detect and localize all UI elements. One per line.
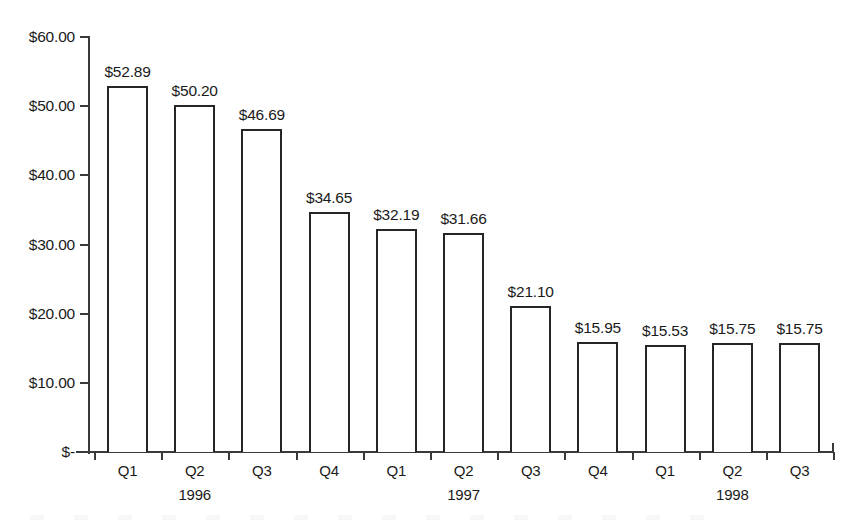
y-axis-tick xyxy=(76,451,93,453)
bar xyxy=(174,105,215,452)
bar-value-label: $50.20 xyxy=(155,83,235,99)
bar xyxy=(779,343,820,452)
scan-artifact xyxy=(30,515,730,520)
y-axis-tick xyxy=(80,313,89,315)
x-axis-tick xyxy=(564,452,566,460)
x-axis-tick xyxy=(296,452,298,460)
y-axis-tick-label: $10.00 xyxy=(29,375,75,391)
y-axis-tick xyxy=(80,36,89,38)
x-axis-tick xyxy=(766,452,768,460)
x-axis-category-label: Q3 xyxy=(760,463,840,478)
y-axis-tick xyxy=(80,105,89,107)
x-axis-tick xyxy=(94,452,96,460)
bar xyxy=(309,212,350,452)
x-axis-tick xyxy=(363,452,365,460)
bar-value-label: $21.10 xyxy=(491,284,571,300)
x-axis-year-label: 1996 xyxy=(155,487,235,502)
x-axis-tick xyxy=(497,452,499,460)
x-axis-tick xyxy=(430,452,432,460)
y-axis-tick-label: $30.00 xyxy=(29,237,75,253)
bar xyxy=(510,306,551,452)
bar xyxy=(241,129,282,452)
bar-value-label: $52.89 xyxy=(88,64,168,80)
y-axis-tick xyxy=(80,244,89,246)
y-axis-tick-label: $40.00 xyxy=(29,167,75,183)
x-axis-tick xyxy=(632,452,634,460)
bar xyxy=(577,342,618,452)
y-axis-tick-label: $60.00 xyxy=(29,29,75,45)
y-axis-tick xyxy=(80,174,89,176)
bar xyxy=(107,86,148,452)
bar xyxy=(376,229,417,452)
y-axis-tick xyxy=(80,382,89,384)
x-axis-tick xyxy=(161,452,163,460)
bar-value-label: $46.69 xyxy=(222,107,302,123)
x-axis-tick xyxy=(833,452,835,460)
x-axis-tick xyxy=(699,452,701,460)
x-axis-tick xyxy=(228,452,230,460)
bar-value-label: $31.66 xyxy=(424,211,504,227)
x-axis-year-label: 1998 xyxy=(692,487,772,502)
y-axis-tick-label: $50.00 xyxy=(29,98,75,114)
bar xyxy=(645,345,686,452)
y-axis-tick-label: $20.00 xyxy=(29,306,75,322)
x-axis-year-label: 1997 xyxy=(424,487,504,502)
bar-value-label: $15.75 xyxy=(760,321,840,337)
bar xyxy=(712,343,753,452)
x-axis-right-cap xyxy=(832,443,834,452)
bar xyxy=(443,233,484,452)
bar-chart-figure: $-$10.00$20.00$30.00$40.00$50.00$60.00 $… xyxy=(0,0,853,525)
bar-value-label: $34.65 xyxy=(289,190,369,206)
y-axis-tick-label: $- xyxy=(62,444,75,460)
